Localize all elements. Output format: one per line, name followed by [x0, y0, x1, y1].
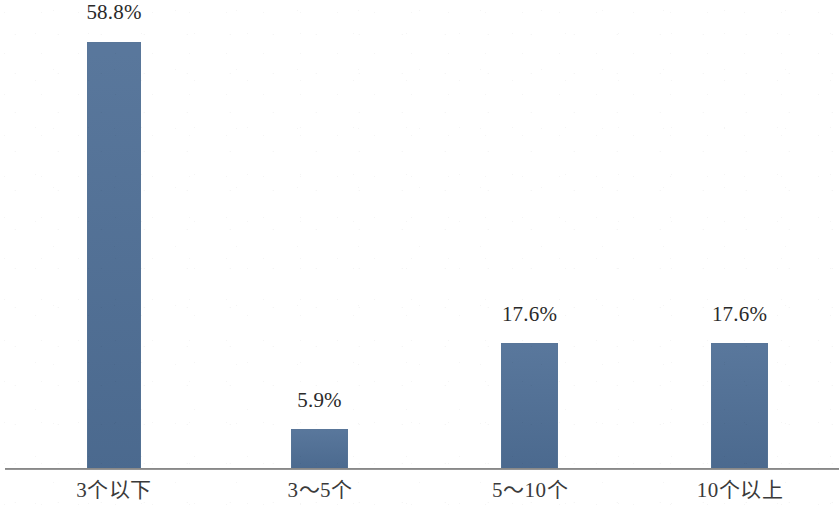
bar-10-and-above[interactable] — [711, 343, 768, 470]
bar-3-and-under[interactable] — [87, 42, 141, 470]
x-axis-line — [5, 468, 839, 470]
plot-area: 58.8% 5.9% 17.6% 17.6% — [0, 0, 839, 470]
bar-group: 5.9% — [291, 0, 348, 470]
bar-group: 17.6% — [711, 0, 768, 470]
bar-value-label: 58.8% — [86, 2, 141, 23]
bar-value-label: 17.6% — [712, 304, 767, 325]
bar-value-label: 17.6% — [502, 304, 557, 325]
bar-value-label: 5.9% — [297, 390, 342, 411]
bar-3-to-5[interactable] — [291, 429, 348, 470]
bar-chart: 58.8% 5.9% 17.6% 17.6% 3个以下 3～5个 5～10个 1… — [0, 0, 839, 509]
x-axis-label-3-and-under: 3个以下 — [76, 480, 152, 501]
x-axis-label-3-to-5: 3～5个 — [288, 480, 353, 501]
bar-group: 58.8% — [87, 0, 141, 470]
bar-5-to-10[interactable] — [501, 343, 558, 470]
bar-group: 17.6% — [501, 0, 558, 470]
x-axis-label-5-to-10: 5～10个 — [492, 480, 568, 501]
x-axis-label-10-and-above: 10个以上 — [697, 480, 784, 501]
